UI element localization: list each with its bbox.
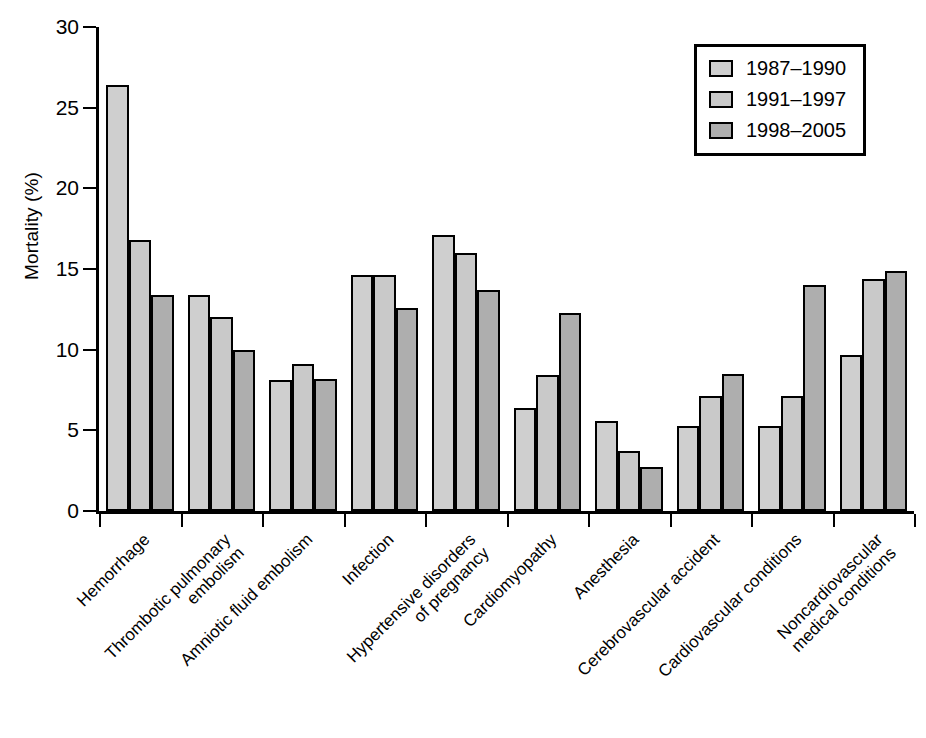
legend-label: 1987–1990 <box>746 58 846 78</box>
bar <box>803 285 826 511</box>
y-tick-mark <box>83 349 96 351</box>
y-tick-label: 0 <box>35 500 79 521</box>
bar <box>188 295 211 511</box>
bar <box>781 396 804 511</box>
bar <box>233 350 256 511</box>
bar-group <box>106 27 174 511</box>
y-tick-label: 30 <box>35 16 79 37</box>
y-tick-label: 15 <box>35 258 79 279</box>
x-tick-mark <box>588 514 590 527</box>
bar <box>514 408 537 511</box>
y-tick-mark <box>83 107 96 109</box>
x-tick-mark <box>344 514 346 527</box>
bar <box>840 355 863 511</box>
bar <box>595 421 618 511</box>
bar <box>885 271 908 511</box>
y-tick-mark <box>83 26 96 28</box>
legend-label: 1998–2005 <box>746 120 846 140</box>
bar <box>432 235 455 511</box>
y-tick-mark <box>83 268 96 270</box>
x-category-label-line: Cerebrovascular accident <box>574 530 724 680</box>
bar <box>455 253 478 511</box>
y-tick-mark <box>83 510 96 512</box>
bar <box>862 279 885 511</box>
bar-group <box>595 27 663 511</box>
bar-group <box>269 27 337 511</box>
bar <box>677 426 700 512</box>
bar-group <box>188 27 256 511</box>
x-tick-mark <box>670 514 672 527</box>
x-axis-line <box>96 511 914 514</box>
bar <box>151 295 174 511</box>
legend-swatch <box>709 91 733 108</box>
x-tick-mark <box>425 514 427 527</box>
x-tick-mark <box>181 514 183 527</box>
y-tick-label: 25 <box>35 97 79 118</box>
y-tick-label: 10 <box>35 339 79 360</box>
x-tick-mark <box>914 514 916 527</box>
bar <box>269 380 292 511</box>
y-tick-label: 20 <box>35 177 79 198</box>
bar-group <box>514 27 582 511</box>
legend-item: 1987–1990 <box>709 56 846 80</box>
bar <box>396 308 419 511</box>
bar <box>314 379 337 511</box>
x-tick-mark <box>751 514 753 527</box>
bar <box>373 275 396 511</box>
bar <box>477 290 500 511</box>
x-tick-mark <box>507 514 509 527</box>
y-axis-title: Mortality (%) <box>21 116 43 336</box>
x-tick-mark <box>99 514 101 527</box>
y-tick-mark <box>83 429 96 431</box>
bar-group <box>351 27 419 511</box>
bar-group <box>432 27 500 511</box>
x-category-label-line: Hemorrhage <box>73 530 153 610</box>
x-category-label-line: Infection <box>339 530 398 589</box>
mortality-bar-chart: Mortality (%) 051015202530 HemorrhageThr… <box>0 0 926 738</box>
legend: 1987–19901991–19971998–2005 <box>694 44 866 156</box>
y-tick-label: 5 <box>35 419 79 440</box>
legend-swatch <box>709 60 733 77</box>
bar <box>536 375 559 511</box>
bar <box>640 467 663 511</box>
bar <box>129 240 152 511</box>
legend-swatch <box>709 122 733 139</box>
x-tick-mark <box>262 514 264 527</box>
legend-item: 1991–1997 <box>709 87 846 111</box>
bar <box>758 426 781 512</box>
bar <box>210 317 233 511</box>
y-tick-mark <box>83 187 96 189</box>
bar <box>292 364 315 511</box>
bar <box>699 396 722 511</box>
bar <box>351 275 374 511</box>
x-category-label-line: Anesthesia <box>569 530 642 603</box>
legend-label: 1991–1997 <box>746 89 846 109</box>
bar <box>722 374 745 511</box>
bar <box>106 85 129 511</box>
bar <box>618 451 641 511</box>
legend-item: 1998–2005 <box>709 118 846 142</box>
x-tick-mark <box>833 514 835 527</box>
bar <box>559 313 582 511</box>
